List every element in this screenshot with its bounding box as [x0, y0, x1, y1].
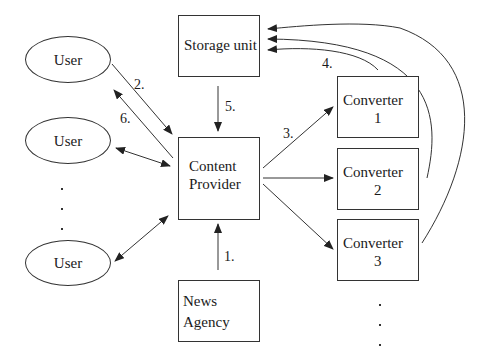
converter-3-label: Converter	[343, 234, 403, 252]
user-1-node: User	[25, 36, 111, 83]
edge-user3-provider	[115, 216, 168, 261]
converters-ellipsis-dot	[379, 324, 381, 326]
converters-ellipsis-dot	[379, 344, 381, 346]
converter-1-number: 1	[374, 109, 382, 127]
converters-ellipsis-dot	[379, 304, 381, 306]
edge-provider-to-converter3	[263, 184, 333, 249]
user-1-label: User	[54, 51, 82, 69]
converter-1-label: Converter	[343, 91, 403, 109]
users-ellipsis-dot	[61, 188, 63, 190]
step-label-6: 6.	[120, 112, 131, 126]
storage-unit-node: Storage unit	[178, 15, 260, 77]
news-agency-node: News Agency	[178, 280, 260, 342]
user-3-label: User	[54, 254, 82, 272]
converter-1-node: Converter 1	[337, 76, 419, 138]
step-label-3: 3.	[283, 127, 294, 141]
user-2-node: User	[25, 117, 111, 164]
storage-unit-label: Storage unit	[184, 36, 257, 54]
step-label-4: 4.	[322, 57, 333, 71]
content-provider-label-line1: Content	[189, 157, 237, 175]
news-agency-label-line2: Agency	[183, 313, 230, 331]
edge-user2-provider	[116, 148, 170, 166]
users-ellipsis-dot	[61, 208, 63, 210]
converter-2-node: Converter 2	[337, 148, 419, 210]
user-3-node: User	[25, 240, 111, 286]
step-label-1: 1.	[224, 250, 235, 264]
step-label-5: 5.	[225, 100, 236, 114]
converter-3-node: Converter 3	[337, 219, 419, 281]
converter-3-number: 3	[374, 252, 382, 270]
content-provider-node: Content Provider	[178, 137, 260, 220]
step-label-2: 2.	[134, 78, 145, 92]
users-ellipsis-dot	[61, 228, 63, 230]
content-provider-label-line2: Provider	[189, 175, 241, 193]
converter-2-number: 2	[374, 181, 382, 199]
edge-provider-to-converter1	[263, 107, 333, 168]
user-2-label: User	[54, 132, 82, 150]
news-agency-label-line1: News	[183, 292, 217, 310]
converter-2-label: Converter	[343, 163, 403, 181]
